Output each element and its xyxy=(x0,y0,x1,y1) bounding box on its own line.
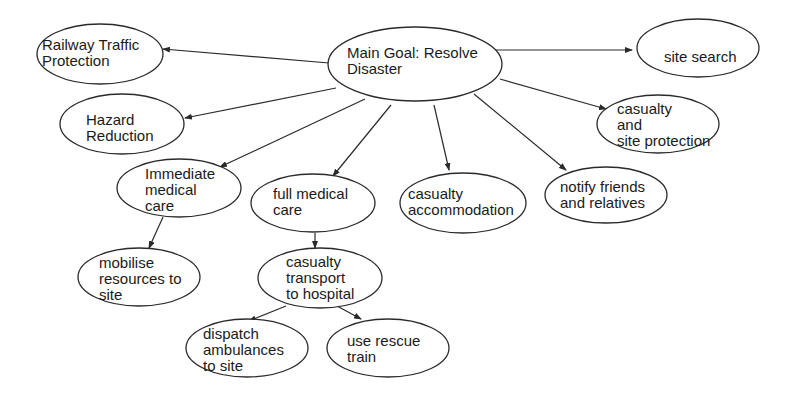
edge-main-to-notify xyxy=(474,94,566,170)
node-rescue-train: use rescuetrain xyxy=(327,319,449,377)
node-label-line: casualty xyxy=(408,185,464,202)
edge-main-to-hazard xyxy=(185,88,336,118)
node-label-line: casualty xyxy=(286,253,342,270)
node-full-medical: full medicalcare xyxy=(251,174,375,232)
edge-transport-to-rescue_train xyxy=(337,306,361,319)
node-label-line: train xyxy=(347,348,376,365)
node-label-line: care xyxy=(273,201,302,218)
node-label: notify friendsand relatives xyxy=(560,178,645,211)
node-site-search: site search xyxy=(637,19,759,77)
node-label-line: resources to xyxy=(99,270,182,287)
node-label-line: full medical xyxy=(273,185,348,202)
node-mobilise: mobiliseresources tosite xyxy=(78,248,200,306)
node-label: site search xyxy=(664,48,737,65)
edge-main-to-immediate xyxy=(220,99,365,167)
edge-main-to-casualty_site xyxy=(500,79,606,109)
node-label-line: Immediate xyxy=(145,165,215,182)
node-main: Main Goal: ResolveDisaster xyxy=(328,27,502,101)
node-label-line: accommodation xyxy=(408,201,514,218)
node-label-line: notify friends xyxy=(560,178,645,195)
node-transport: casualtytransportto hospital xyxy=(258,248,382,308)
node-hazard: HazardReduction xyxy=(60,94,184,154)
node-dispatch: dispatchambulancesto site xyxy=(186,319,308,377)
edge-main-to-full_medical xyxy=(333,105,391,176)
node-label-line: Disaster xyxy=(347,60,402,77)
node-label-line: Railway Traffic xyxy=(42,36,140,53)
node-label-line: to hospital xyxy=(286,285,354,302)
node-label-line: site xyxy=(99,286,122,303)
node-label-line: use rescue xyxy=(347,332,420,349)
node-label-line: mobilise xyxy=(99,254,154,271)
node-label-line: and xyxy=(617,116,642,133)
node-immediate: Immediatemedicalcare xyxy=(117,159,241,217)
node-label-line: and relatives xyxy=(560,194,645,211)
goal-diagram: Main Goal: ResolveDisasterRailway Traffi… xyxy=(0,0,798,409)
node-notify: notify friendsand relatives xyxy=(545,167,667,223)
node-label-line: Protection xyxy=(42,52,110,69)
node-label-line: site protection xyxy=(617,132,710,149)
node-label-line: dispatch xyxy=(203,325,259,342)
nodes-layer: Main Goal: ResolveDisasterRailway Traffi… xyxy=(37,19,759,377)
edge-main-to-accommodation xyxy=(434,105,449,170)
node-label-line: casualty xyxy=(617,100,673,117)
node-label-line: ambulances xyxy=(203,341,284,358)
edge-main-to-railway xyxy=(163,49,329,63)
node-railway: Railway TrafficProtection xyxy=(37,24,163,84)
node-ellipse xyxy=(251,174,375,232)
node-label-line: transport xyxy=(286,269,346,286)
node-casualty-site: casualtyandsite protection xyxy=(597,95,719,153)
node-accommodation: casualtyaccommodation xyxy=(400,173,526,233)
node-label-line: site search xyxy=(664,48,737,65)
node-label-line: medical xyxy=(145,181,197,198)
node-label-line: to site xyxy=(203,357,243,374)
node-label-line: Main Goal: Resolve xyxy=(347,44,478,61)
node-label-line: Reduction xyxy=(86,127,154,144)
node-label-line: Hazard xyxy=(86,111,134,128)
node-label-line: care xyxy=(145,197,174,214)
edge-immediate-to-mobilise xyxy=(149,217,163,248)
